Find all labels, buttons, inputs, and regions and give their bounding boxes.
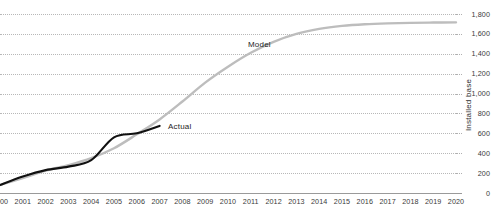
x-axis-tick-label: 2003	[60, 197, 76, 206]
x-axis-tick-label: 2015	[334, 197, 350, 206]
y-axis-tick-label: 400	[464, 149, 490, 158]
x-axis-tick-label: 2001	[15, 197, 31, 206]
x-axis-tick-label: 2010	[220, 197, 236, 206]
y-axis-tick	[456, 193, 462, 194]
y-axis-title: Installed base	[463, 79, 472, 131]
plot-area: ModelActual	[0, 14, 456, 193]
y-axis-tick	[456, 94, 462, 95]
y-axis-tick-label: 1,200	[464, 69, 490, 78]
x-axis-tick-label: 2009	[197, 197, 213, 206]
x-axis-tick-label: 2007	[151, 197, 167, 206]
x-axis-tick-label: 2020	[448, 197, 464, 206]
y-axis-tick-label: 0	[464, 189, 490, 198]
x-axis-tick-label: 2011	[243, 197, 259, 206]
y-axis-tick	[456, 14, 462, 15]
chart-container: ModelActual 02004006008001,0001,2001,400…	[0, 0, 495, 210]
x-axis-tick-label: 2016	[357, 197, 373, 206]
x-axis-tick-labels: 2000200120022003200420052006200720082009…	[0, 197, 456, 209]
x-axis-tick-label: 2006	[129, 197, 145, 206]
x-axis-tick-label: 2014	[311, 197, 327, 206]
y-axis-tick	[456, 34, 462, 35]
x-axis-tick-label: 2002	[37, 197, 53, 206]
y-axis-tick	[456, 74, 462, 75]
series-lines	[0, 14, 456, 193]
y-axis-tick-label: 1,600	[464, 29, 490, 38]
y-axis-tick-label: 1,400	[464, 49, 490, 58]
x-axis-tick-label: 2018	[402, 197, 418, 206]
x-axis-tick-label: 2019	[425, 197, 441, 206]
y-axis-tick	[456, 173, 462, 174]
chart-title-clipped	[0, 0, 495, 1]
x-axis-tick-label: 2004	[83, 197, 99, 206]
x-axis-baseline	[0, 193, 456, 194]
y-axis-tick	[456, 54, 462, 55]
x-axis-tick-label: 2013	[288, 197, 304, 206]
y-axis-tick	[456, 153, 462, 154]
x-axis-tick-label: 2012	[265, 197, 281, 206]
y-axis-tick-label: 1,800	[464, 10, 490, 19]
annotation-model: Model	[248, 40, 271, 49]
x-axis-tick-label: 2005	[106, 197, 122, 206]
x-axis-tick-label: 2000	[0, 197, 8, 206]
x-axis-tick-label: 2017	[379, 197, 395, 206]
y-axis-tick-label: 200	[464, 169, 490, 178]
series-line-model	[0, 22, 456, 185]
x-axis-tick-label: 2008	[174, 197, 190, 206]
y-axis-tick	[456, 133, 462, 134]
y-axis-tick	[456, 113, 462, 114]
annotation-actual: Actual	[168, 122, 191, 131]
